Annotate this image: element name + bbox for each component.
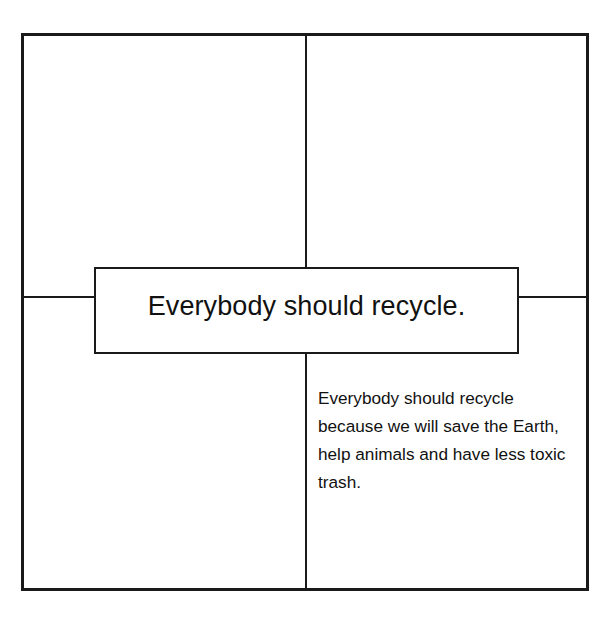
main-idea-box: Everybody should recycle. bbox=[94, 267, 519, 354]
quadrant-bottom-left bbox=[24, 354, 305, 588]
quadrant-top-right bbox=[307, 36, 586, 267]
main-idea-text: Everybody should recycle. bbox=[148, 293, 466, 320]
quadrant-bottom-right: Everybody should recycle because we will… bbox=[307, 354, 586, 588]
quadrant-bottom-right-text: Everybody should recycle because we will… bbox=[318, 384, 578, 496]
quadrant-top-left bbox=[24, 36, 305, 267]
